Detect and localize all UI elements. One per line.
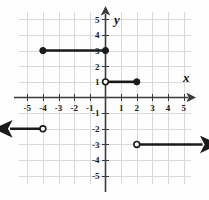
y-tick-label: -1: [92, 108, 100, 118]
graph-svg: -5-4-3-2-112345-5-4-3-2-112345 x y: [0, 0, 209, 200]
y-tick-label: 4: [95, 30, 100, 40]
y-tick-label: -5: [92, 171, 100, 181]
x-tick-label: 3: [150, 103, 155, 113]
y-tick-label: -4: [92, 155, 100, 165]
y-tick-label: 5: [95, 15, 100, 25]
x-tick-label: 4: [166, 103, 171, 113]
y-tick-label: 2: [95, 62, 100, 72]
x-tick-label: -4: [39, 103, 47, 113]
x-tick-label: -3: [55, 103, 63, 113]
x-tick-label: -2: [70, 103, 78, 113]
x-tick-label: 5: [182, 103, 187, 113]
open-endpoint-circle: [134, 142, 140, 148]
closed-endpoint-dot: [40, 47, 46, 53]
y-tick-label: -3: [92, 140, 100, 150]
x-tick-label: 1: [119, 103, 124, 113]
closed-endpoint-dot: [102, 47, 108, 53]
x-tick-label: -5: [24, 103, 32, 113]
closed-endpoint-dot: [134, 79, 140, 85]
figure-background: [0, 0, 209, 200]
open-endpoint-circle: [103, 79, 109, 85]
x-axis-label: x: [182, 70, 190, 85]
coordinate-graph-figure: -5-4-3-2-112345-5-4-3-2-112345 x y: [0, 0, 209, 200]
open-endpoint-circle: [40, 126, 46, 132]
y-tick-label: -2: [92, 124, 100, 134]
y-axis-label: y: [112, 12, 120, 27]
x-tick-label: 2: [135, 103, 140, 113]
y-tick-label: 1: [95, 77, 100, 87]
